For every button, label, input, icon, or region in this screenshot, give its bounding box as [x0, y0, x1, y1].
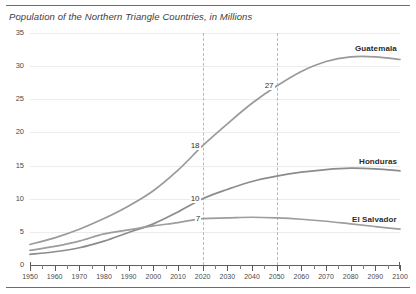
- value-annotation-10: 10: [190, 194, 201, 203]
- series-label-honduras: Honduras: [359, 157, 397, 166]
- value-annotation-7: 7: [195, 214, 201, 223]
- series-label-guatemala: Guatemala: [355, 44, 397, 53]
- value-annotation-18: 18: [190, 141, 201, 150]
- series-curves-group: [0, 0, 416, 294]
- figure-container: Population of the Northern Triangle Coun…: [0, 0, 416, 294]
- series-label-el-salvador: El Salvador: [352, 215, 397, 224]
- series-line-el-salvador: [30, 217, 400, 250]
- series-line-honduras: [30, 168, 400, 254]
- value-annotation-27: 27: [264, 81, 275, 90]
- series-line-guatemala: [30, 56, 400, 244]
